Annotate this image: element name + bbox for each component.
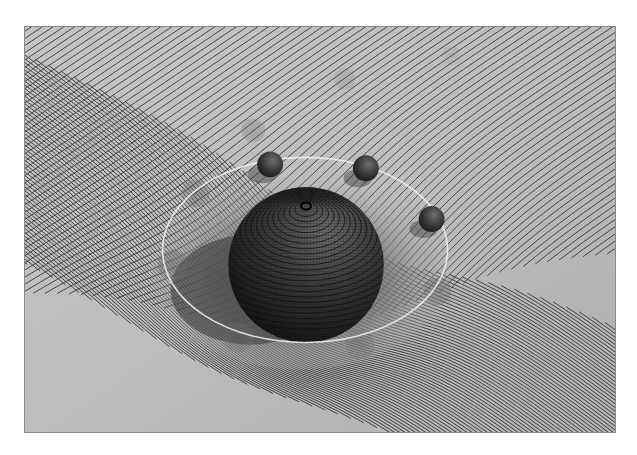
ghost-sphere [334, 68, 356, 90]
spacetime-illustration [25, 27, 615, 432]
illustration-page [0, 0, 637, 455]
caption-clipped [24, 446, 616, 455]
ghost-sphere [442, 46, 462, 66]
illustration-frame [24, 26, 616, 433]
satellite-sphere [257, 151, 283, 177]
ghost-sphere [241, 119, 265, 143]
satellite-sphere [353, 155, 379, 181]
ghost-sphere [424, 278, 452, 306]
satellite-sphere [419, 206, 445, 232]
ghost-sphere [345, 330, 375, 360]
